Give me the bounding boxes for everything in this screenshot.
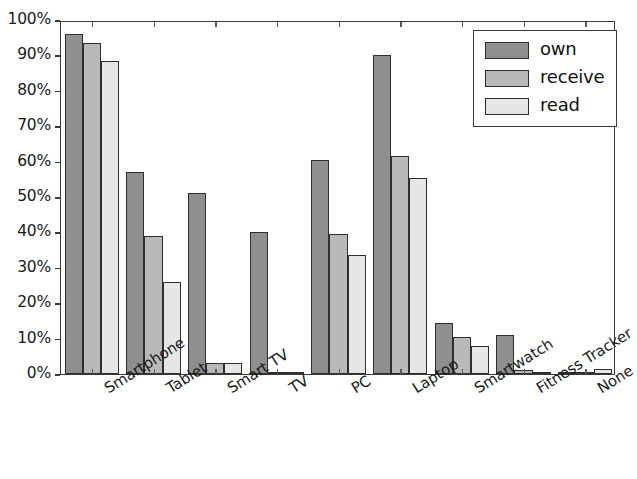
bar	[329, 234, 347, 374]
y-axis-tick-label: 50%	[17, 187, 51, 205]
y-axis-tick-label: 60%	[17, 152, 51, 170]
legend: ownreceiveread	[473, 30, 617, 127]
y-axis-tick-label: 80%	[17, 81, 51, 99]
y-axis-tick-label: 40%	[17, 222, 51, 240]
bar	[348, 255, 366, 374]
x-axis-tick-mark-bottom	[339, 369, 340, 374]
legend-label: read	[540, 94, 580, 115]
x-axis-tick-mark-top	[92, 22, 93, 27]
bar	[311, 160, 329, 374]
bar	[65, 34, 83, 374]
legend-swatch	[485, 70, 529, 87]
x-axis-tick-mark-top	[585, 22, 586, 27]
bar	[471, 346, 489, 374]
y-axis-tick-label: 0%	[27, 364, 51, 382]
y-axis-tick-label: 20%	[17, 293, 51, 311]
bar	[188, 193, 206, 374]
x-axis-tick-label: TV	[286, 372, 312, 397]
bar	[373, 55, 391, 374]
legend-swatch	[485, 42, 529, 59]
y-axis-tick-label: 90%	[17, 45, 51, 63]
x-axis-tick-label: PC	[348, 372, 374, 398]
bar	[126, 172, 144, 374]
bar	[391, 156, 409, 374]
y-axis-tick-label: 30%	[17, 258, 51, 276]
x-axis-tick-mark-top	[462, 22, 463, 27]
y-axis-tick-label: 100%	[7, 10, 51, 28]
x-axis-tick-mark-top	[400, 22, 401, 27]
x-axis-tick-mark-bottom	[92, 369, 93, 374]
x-axis-tick-mark-top	[154, 22, 155, 27]
bar	[409, 178, 427, 374]
legend-swatch	[485, 98, 529, 115]
x-axis-tick-mark-top	[215, 22, 216, 27]
bar	[101, 61, 119, 374]
legend-label: receive	[540, 66, 604, 87]
x-axis-tick-mark-top	[524, 22, 525, 27]
bar	[250, 232, 268, 374]
x-axis-tick-mark-top	[339, 22, 340, 27]
y-axis-tick-label: 10%	[17, 329, 51, 347]
x-axis-tick-mark-top	[277, 22, 278, 27]
legend-label: own	[540, 38, 577, 59]
x-axis-tick-mark-bottom	[400, 369, 401, 374]
bar	[83, 43, 101, 374]
y-axis-tick-label: 70%	[17, 116, 51, 134]
x-axis-tick-mark-bottom	[215, 369, 216, 374]
